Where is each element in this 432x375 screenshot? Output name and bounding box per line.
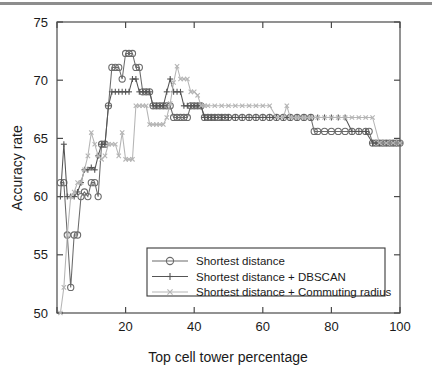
y-tick-label: 75: [34, 15, 48, 30]
x-tick-label: 20: [118, 319, 132, 334]
legend-label-0: Shortest distance: [196, 255, 285, 267]
x-tick-label: 60: [256, 319, 270, 334]
y-tick-label: 65: [34, 131, 48, 146]
legend-label-2: Shortest distance + Commuting radius: [196, 286, 392, 298]
x-tick-label: 80: [324, 319, 338, 334]
accuracy-rate-line-chart: 505560657075 20406080100 Accuracy rate T…: [0, 0, 432, 375]
y-tick-label: 60: [34, 189, 48, 204]
figure-container: 505560657075 20406080100 Accuracy rate T…: [0, 0, 432, 375]
y-axis-title: Accuracy rate: [9, 125, 25, 211]
legend-label-1: Shortest distance + DBSCAN: [196, 271, 346, 283]
chart-legend: Shortest distanceShortest distance + DBS…: [147, 248, 392, 298]
x-axis-title: Top cell tower percentage: [148, 349, 308, 365]
x-tick-label: 40: [187, 319, 201, 334]
y-tick-label: 55: [34, 247, 48, 262]
y-tick-label: 70: [34, 73, 48, 88]
x-tick-label: 100: [389, 319, 411, 334]
y-tick-label: 50: [34, 306, 48, 321]
